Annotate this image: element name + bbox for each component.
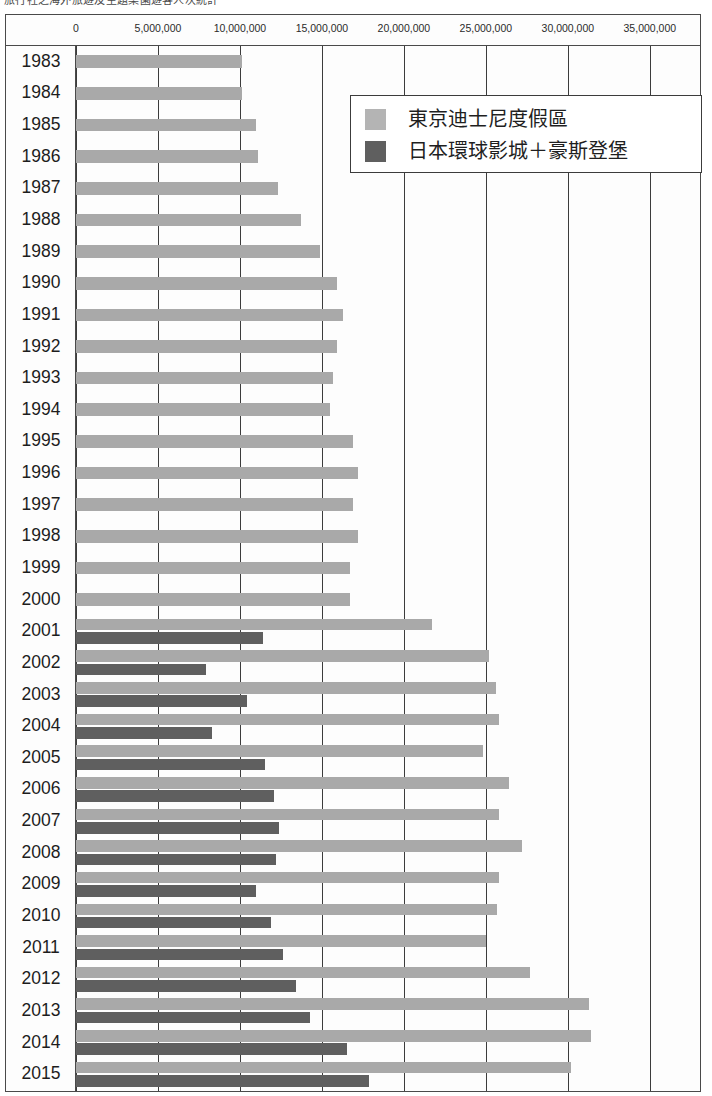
bar-tokyo-disney-resort (76, 530, 358, 543)
year-label: 1990 (6, 274, 76, 292)
bar-tokyo-disney-resort (76, 403, 330, 416)
bar-tokyo-disney-resort (76, 619, 432, 631)
year-label: 1994 (6, 401, 76, 419)
year-label: 1991 (6, 306, 76, 324)
gridline (650, 46, 651, 1091)
year-label: 1999 (6, 559, 76, 577)
bar-tokyo-disney-resort (76, 87, 242, 100)
bar-tokyo-disney-resort (76, 967, 530, 979)
x-axis-tick-label: 10,000,000 (214, 22, 267, 34)
bar-usj-huis-ten-bosch (76, 727, 212, 739)
bar-usj-huis-ten-bosch (76, 790, 274, 802)
year-label: 1992 (6, 338, 76, 356)
year-label: 2011 (6, 939, 76, 957)
year-label: 2007 (6, 812, 76, 830)
year-label: 2010 (6, 907, 76, 925)
year-label: 1998 (6, 527, 76, 545)
bar-usj-huis-ten-bosch (76, 980, 296, 992)
year-label: 2014 (6, 1034, 76, 1052)
bar-tokyo-disney-resort (76, 277, 337, 290)
year-label: 1983 (6, 53, 76, 71)
x-axis-tick-label: 25,000,000 (460, 22, 513, 34)
gridline (486, 46, 487, 1091)
bar-usj-huis-ten-bosch (76, 885, 256, 897)
bars-area (76, 46, 700, 1091)
bar-usj-huis-ten-bosch (76, 664, 206, 676)
bar-tokyo-disney-resort (76, 372, 333, 385)
legend-item-label: 東京迪士尼度假區 (408, 109, 568, 129)
year-label: 1985 (6, 116, 76, 134)
bar-tokyo-disney-resort (76, 182, 278, 195)
legend-item-usj-huis-ten-bosch: 日本環球影城＋豪斯登堡 (365, 135, 701, 167)
bar-tokyo-disney-resort (76, 1030, 591, 1042)
legend-swatch-icon (365, 109, 386, 130)
bar-usj-huis-ten-bosch (76, 1075, 369, 1087)
bar-tokyo-disney-resort (76, 682, 496, 694)
year-label: 2009 (6, 875, 76, 893)
x-axis-tick-label: 20,000,000 (378, 22, 431, 34)
year-label: 2001 (6, 622, 76, 640)
bar-tokyo-disney-resort (76, 245, 320, 258)
bar-tokyo-disney-resort (76, 214, 301, 227)
year-label: 1989 (6, 243, 76, 261)
bar-tokyo-disney-resort (76, 904, 497, 916)
bar-tokyo-disney-resort (76, 55, 242, 68)
bar-tokyo-disney-resort (76, 593, 350, 606)
year-label: 2003 (6, 686, 76, 704)
year-label: 2000 (6, 591, 76, 609)
year-label: 1988 (6, 211, 76, 229)
bar-tokyo-disney-resort (76, 467, 358, 480)
x-axis-tick-label: 5,000,000 (135, 22, 182, 34)
year-label: 1997 (6, 496, 76, 514)
legend-item-label: 日本環球影城＋豪斯登堡 (408, 141, 628, 161)
bar-usj-huis-ten-bosch (76, 917, 271, 929)
bar-tokyo-disney-resort (76, 998, 589, 1010)
chart-caption: 旅行社之海外旅遊及主題樂園遊客人次統計 (4, 0, 219, 7)
bar-tokyo-disney-resort (76, 714, 499, 726)
bar-tokyo-disney-resort (76, 340, 337, 353)
bar-tokyo-disney-resort (76, 1062, 571, 1074)
bar-tokyo-disney-resort (76, 872, 499, 884)
year-label: 1995 (6, 432, 76, 450)
gridline (568, 46, 569, 1091)
year-axis-column: 1983198419851986198719881989199019911992… (6, 46, 76, 1091)
x-axis: 05,000,00010,000,00015,000,00020,000,000… (6, 15, 700, 46)
bar-tokyo-disney-resort (76, 650, 489, 662)
bar-tokyo-disney-resort (76, 935, 486, 947)
bar-tokyo-disney-resort (76, 498, 353, 511)
year-label: 1986 (6, 148, 76, 166)
bar-tokyo-disney-resort (76, 309, 343, 322)
bar-tokyo-disney-resort (76, 435, 353, 448)
x-axis-tick-label: 30,000,000 (542, 22, 595, 34)
year-label: 2015 (6, 1065, 76, 1083)
year-label: 2004 (6, 717, 76, 735)
year-label: 1993 (6, 369, 76, 387)
bar-usj-huis-ten-bosch (76, 695, 247, 707)
year-label: 2008 (6, 844, 76, 862)
bar-tokyo-disney-resort (76, 119, 256, 132)
year-label: 1984 (6, 84, 76, 102)
plot-area: 1983198419851986198719881989199019911992… (6, 46, 700, 1091)
bar-tokyo-disney-resort (76, 150, 258, 163)
x-axis-tick-label: 0 (73, 22, 79, 34)
year-label: 2002 (6, 654, 76, 672)
bar-tokyo-disney-resort (76, 777, 509, 789)
bar-usj-huis-ten-bosch (76, 822, 279, 834)
bar-usj-huis-ten-bosch (76, 1012, 310, 1024)
bar-tokyo-disney-resort (76, 745, 483, 757)
year-label: 2012 (6, 970, 76, 988)
bar-tokyo-disney-resort (76, 809, 499, 821)
bar-usj-huis-ten-bosch (76, 854, 276, 866)
chart-legend: 東京迪士尼度假區 日本環球影城＋豪斯登堡 (350, 95, 702, 173)
bar-usj-huis-ten-bosch (76, 759, 265, 771)
bar-tokyo-disney-resort (76, 562, 350, 575)
year-label: 2013 (6, 1002, 76, 1020)
legend-swatch-icon (365, 141, 386, 162)
chart-frame: 05,000,00010,000,00015,000,00020,000,000… (5, 14, 701, 1092)
year-label: 2006 (6, 780, 76, 798)
bar-usj-huis-ten-bosch (76, 632, 263, 644)
x-axis-tick-label: 15,000,000 (296, 22, 349, 34)
year-label: 1987 (6, 179, 76, 197)
bar-usj-huis-ten-bosch (76, 1043, 347, 1055)
bar-tokyo-disney-resort (76, 840, 522, 852)
